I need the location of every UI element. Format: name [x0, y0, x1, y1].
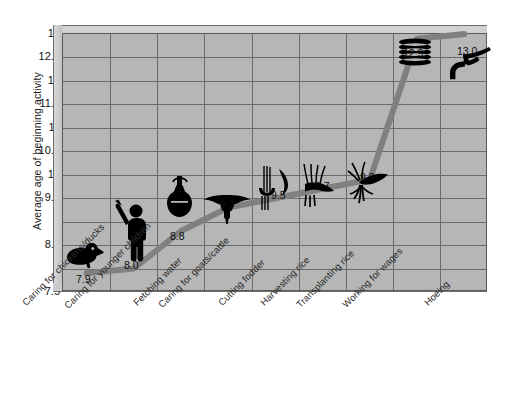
- x-tick-label: Caring for chickens/ducks: [20, 221, 106, 307]
- x-tick-label: Hoeing: [422, 278, 451, 307]
- x-axis-tick-labels: Caring for chickens/ducks Caring for you…: [0, 0, 506, 408]
- chart-container: Average age of beginning activity 13 12.…: [0, 0, 506, 408]
